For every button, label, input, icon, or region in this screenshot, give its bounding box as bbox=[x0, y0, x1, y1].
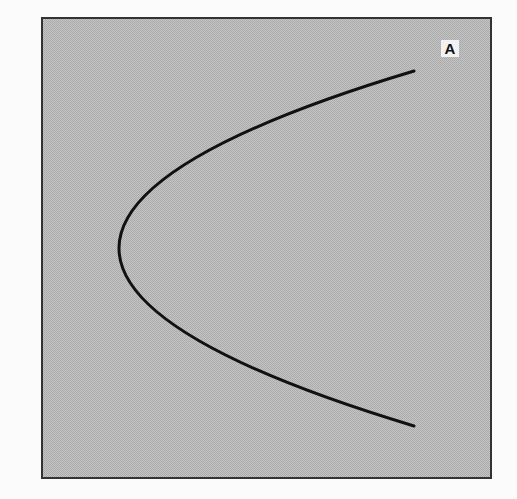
panel-label: A bbox=[441, 40, 459, 57]
figure: A bbox=[0, 0, 517, 499]
diagram-canvas bbox=[0, 0, 517, 499]
plot-panel bbox=[42, 18, 491, 478]
